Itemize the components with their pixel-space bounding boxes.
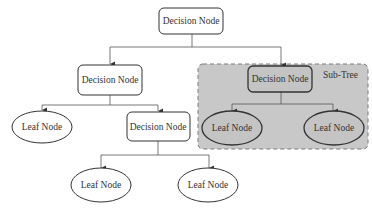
inner-decision-node: Decision Node: [127, 112, 190, 141]
subtree-decision-node: Decision Node: [248, 66, 312, 92]
decision-tree-diagram: Sub-Tree Decision Node Decision Node D: [0, 0, 372, 210]
left-leaf-node: Leaf Node: [12, 111, 72, 143]
subtree-left-leaf-node: Leaf Node: [202, 111, 262, 145]
left-leaf-label: Leaf Node: [22, 122, 62, 132]
left-decision-label: Decision Node: [82, 75, 139, 85]
subtree-left-leaf-label: Leaf Node: [212, 123, 252, 133]
subtree-right-leaf-node: Leaf Node: [304, 111, 364, 145]
bottom-right-leaf-label: Leaf Node: [188, 180, 228, 190]
root-decision-node: Decision Node: [159, 8, 223, 34]
subtree-label: Sub-Tree: [323, 70, 358, 80]
left-decision-node: Decision Node: [78, 65, 142, 95]
bottom-left-leaf-node: Leaf Node: [71, 168, 131, 202]
bottom-right-leaf-node: Leaf Node: [178, 168, 238, 202]
subtree-decision-label: Decision Node: [252, 74, 309, 84]
root-decision-label: Decision Node: [163, 16, 220, 26]
subtree-right-leaf-label: Leaf Node: [314, 123, 354, 133]
inner-decision-label: Decision Node: [130, 122, 187, 132]
bottom-left-leaf-label: Leaf Node: [81, 180, 121, 190]
